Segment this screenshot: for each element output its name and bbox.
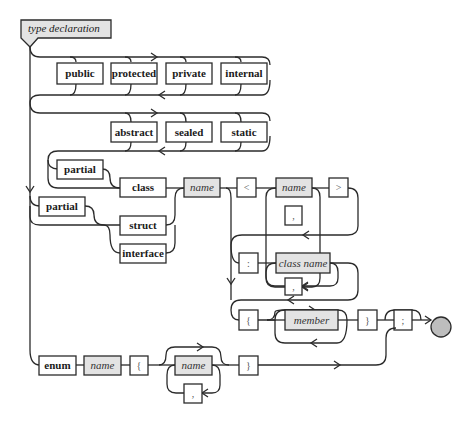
base-list: : class name , bbox=[227, 245, 358, 310]
keyword-sealed[interactable]: sealed bbox=[166, 122, 212, 142]
svg-text:abstract: abstract bbox=[115, 126, 154, 138]
svg-text:;: ; bbox=[402, 315, 405, 326]
svg-text:static: static bbox=[231, 126, 256, 138]
type-name-nonterminal[interactable]: name bbox=[184, 178, 220, 197]
enum-separator-symbol[interactable]: , bbox=[184, 384, 202, 403]
end-terminal bbox=[431, 317, 451, 337]
keyword-interface[interactable]: interface bbox=[120, 244, 166, 263]
enum-close-brace[interactable]: } bbox=[239, 356, 258, 375]
svg-text:name: name bbox=[282, 181, 306, 193]
keyword-partial-other[interactable]: partial bbox=[39, 197, 85, 216]
keyword-static[interactable]: static bbox=[221, 122, 267, 142]
svg-text:}: } bbox=[365, 315, 370, 326]
body-semicolon[interactable]: ; bbox=[394, 310, 412, 330]
diagram-title: type declaration bbox=[28, 22, 100, 34]
base-colon-symbol[interactable]: : bbox=[239, 253, 258, 273]
keyword-public[interactable]: public bbox=[57, 63, 103, 84]
svg-text:{: { bbox=[246, 315, 251, 326]
body-open-brace[interactable]: { bbox=[239, 310, 258, 330]
generic-separator-symbol[interactable]: , bbox=[285, 206, 302, 225]
enum-open-brace[interactable]: { bbox=[130, 356, 148, 375]
svg-text:private: private bbox=[172, 67, 206, 79]
svg-text:name: name bbox=[190, 181, 214, 193]
generic-close-symbol[interactable]: > bbox=[329, 178, 348, 197]
member-nonterminal[interactable]: member bbox=[285, 310, 338, 330]
svg-text:<: < bbox=[244, 182, 250, 193]
svg-text:public: public bbox=[65, 67, 94, 79]
svg-text:partial: partial bbox=[64, 163, 96, 175]
svg-text:,: , bbox=[292, 281, 295, 292]
class-modifier-row: abstract sealed static bbox=[30, 103, 270, 160]
svg-text:interface: interface bbox=[122, 247, 164, 259]
keyword-protected[interactable]: protected bbox=[111, 63, 157, 84]
svg-text:member: member bbox=[294, 314, 330, 326]
svg-text:internal: internal bbox=[225, 67, 262, 79]
svg-text:}: } bbox=[246, 360, 251, 371]
svg-text:class name: class name bbox=[279, 257, 328, 269]
svg-text:,: , bbox=[192, 388, 195, 399]
enum-row: enum name { name , } bbox=[39, 328, 396, 403]
base-class-name-nonterminal[interactable]: class name bbox=[276, 253, 330, 273]
body-close-brace[interactable]: } bbox=[358, 310, 377, 330]
generic-param-nonterminal[interactable]: name bbox=[276, 178, 312, 197]
svg-text:name: name bbox=[182, 359, 206, 371]
svg-text:partial: partial bbox=[46, 200, 78, 212]
svg-text:sealed: sealed bbox=[175, 126, 204, 138]
svg-text:>: > bbox=[336, 182, 342, 193]
enum-name-nonterminal[interactable]: name bbox=[84, 356, 121, 375]
svg-text:name: name bbox=[91, 359, 115, 371]
access-modifier-row: public protected private internal bbox=[30, 47, 270, 103]
keyword-struct[interactable]: struct bbox=[120, 216, 166, 235]
keyword-abstract[interactable]: abstract bbox=[111, 122, 157, 142]
svg-text:enum: enum bbox=[44, 359, 70, 371]
base-separator-symbol[interactable]: , bbox=[285, 278, 302, 295]
keyword-enum[interactable]: enum bbox=[39, 356, 76, 375]
title-tag: type declaration bbox=[21, 20, 111, 47]
keyword-class[interactable]: class bbox=[120, 178, 166, 197]
keyword-internal[interactable]: internal bbox=[221, 63, 267, 84]
keyword-private[interactable]: private bbox=[166, 63, 212, 84]
keyword-partial-class[interactable]: partial bbox=[57, 160, 103, 179]
svg-text::: : bbox=[247, 258, 250, 269]
svg-text:protected: protected bbox=[112, 67, 156, 79]
svg-text:struct: struct bbox=[129, 219, 157, 231]
generic-open-symbol[interactable]: < bbox=[237, 178, 256, 197]
enum-value-nonterminal[interactable]: name bbox=[175, 356, 212, 375]
type-body: { member } ; bbox=[231, 306, 451, 347]
svg-text:{: { bbox=[137, 360, 142, 371]
class-row: partial class bbox=[48, 160, 184, 197]
struct-interface-row: partial struct interface bbox=[30, 188, 184, 263]
svg-text:,: , bbox=[292, 210, 295, 221]
svg-text:class: class bbox=[132, 181, 155, 193]
